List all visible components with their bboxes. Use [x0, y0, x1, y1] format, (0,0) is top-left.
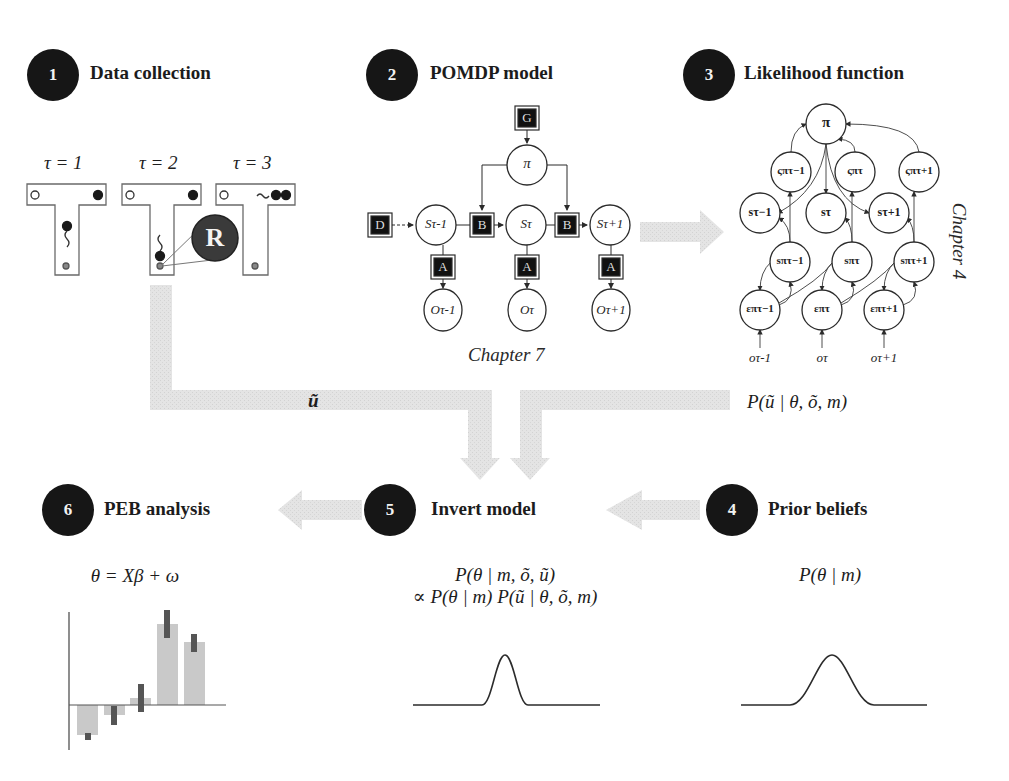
node-s-next: Sτ+1: [590, 216, 630, 232]
step-title-pomdp-model: POMDP model: [430, 62, 553, 84]
step-badge-2: 2: [366, 49, 418, 101]
peb-bar-chart: [69, 610, 226, 750]
lik-obs-cur: oτ: [802, 350, 842, 366]
node-o-cur: Oτ: [507, 302, 547, 318]
lik-node-varsigma-cur: ςπτ: [835, 164, 875, 176]
node-s-cur: Sτ: [506, 216, 546, 232]
node-o-prev: Oτ-1: [423, 302, 463, 318]
lik-node-varsigma-prev: ςπτ−1: [771, 164, 811, 176]
lik-node-eps-prev: επτ−1: [740, 302, 780, 314]
trial-label-1: τ = 1: [44, 152, 83, 174]
step-badge-5: 5: [364, 484, 416, 536]
step-badge-3: 3: [683, 49, 735, 101]
lik-node-s-prev: sτ−1: [740, 205, 780, 220]
chapter-4-label: Chapter 4: [948, 203, 970, 280]
lik-node-varsigma-next: ςπτ+1: [899, 164, 939, 176]
step-badge-4: 4: [706, 484, 758, 536]
step-title-prior-beliefs: Prior beliefs: [768, 498, 867, 520]
chapter-7-label: Chapter 7: [468, 344, 545, 366]
node-a-3: A: [602, 259, 620, 275]
node-d: D: [371, 217, 389, 233]
lik-node-spi-prev: sπτ−1: [770, 254, 810, 266]
arrow-pomdp-to-likelihood: [640, 210, 724, 254]
step-badge-6: 6: [42, 484, 94, 536]
node-b-2: B: [558, 217, 576, 233]
arrow-invert-to-peb: [278, 490, 362, 530]
peb-equation: θ = Xβ + ω: [60, 565, 210, 587]
trial-label-3: τ = 3: [233, 152, 272, 174]
lik-obs-next: oτ+1: [864, 350, 904, 366]
lik-node-eps-next: επτ+1: [864, 302, 904, 314]
node-o-next: Oτ+1: [591, 302, 631, 318]
lik-node-pi: π: [814, 114, 838, 131]
step-title-peb-analysis: PEB analysis: [104, 498, 210, 520]
prior-equation: P(θ | m): [780, 564, 880, 586]
lik-obs-prev: oτ-1: [740, 350, 780, 366]
lik-node-s-cur: sτ: [806, 205, 846, 220]
step-title-data-collection: Data collection: [90, 62, 211, 84]
lik-node-eps-cur: επτ: [802, 302, 842, 314]
step-title-invert-model: Invert model: [431, 498, 536, 520]
node-g: G: [518, 110, 536, 126]
posterior-curve: [413, 655, 600, 705]
lik-node-spi-next: sπτ+1: [894, 254, 934, 266]
node-pi: π: [515, 155, 539, 172]
data-u-label: ũ: [308, 390, 319, 412]
node-a-2: A: [518, 259, 536, 275]
diagram-canvas: [0, 0, 1009, 781]
likelihood-equation: P(ũ | θ, õ, m): [747, 391, 847, 413]
trial-label-2: τ = 2: [139, 152, 178, 174]
arrow-prior-to-invert: [606, 490, 700, 530]
lik-node-spi-cur: sπτ: [832, 254, 872, 266]
node-b-1: B: [473, 217, 491, 233]
step-badge-1: 1: [27, 49, 79, 101]
flow-connector-right: [510, 390, 730, 480]
step-title-likelihood-function: Likelihood function: [744, 62, 904, 84]
t-maze-1: [27, 184, 106, 275]
posterior-equation-line1: P(θ | m, õ, ũ): [380, 564, 630, 586]
prior-curve: [741, 655, 927, 705]
posterior-equation-line2: ∝ P(θ | m) P(ũ | θ, õ, m): [380, 585, 630, 608]
node-s-prev: Sτ-1: [416, 216, 456, 232]
zoom-r-label: R: [203, 223, 227, 253]
node-a-1: A: [434, 259, 452, 275]
lik-node-s-next: sτ+1: [869, 205, 909, 220]
